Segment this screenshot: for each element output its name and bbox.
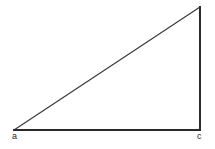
triangle-edge-hypotenuse [14, 7, 200, 130]
vertex-label-a: a [12, 132, 17, 141]
vertex-label-c: c [197, 132, 202, 141]
triangle-drawing [0, 0, 215, 149]
triangle-figure-canvas: a c [0, 0, 215, 149]
